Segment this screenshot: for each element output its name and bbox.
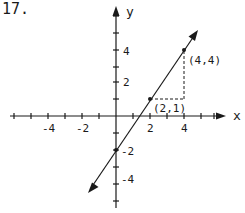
point-y-intercept [114, 148, 118, 152]
x-axis-arrow-icon [216, 113, 226, 120]
x-tick-label-4: 4 [181, 122, 188, 135]
x-tick-label-2: 2 [147, 122, 154, 135]
x-axis-label: x [233, 108, 241, 123]
coordinate-plane: y x (4,4) (2,1) -4 -2 2 4 4 2 -2 -4 [0, 0, 245, 213]
line-arrow-down-icon [88, 183, 99, 194]
line-arrow-up-icon [189, 30, 199, 41]
x-tick-label-neg2: -2 [76, 122, 89, 135]
point-2-1-label: (2,1) [153, 102, 186, 115]
y-axis [113, 6, 120, 208]
point-4-4-label: (4,4) [188, 54, 221, 67]
point-4-4 [182, 48, 186, 52]
y-tick-label-neg2: -2 [121, 145, 134, 158]
point-2-1 [148, 97, 152, 101]
x-axis [10, 113, 226, 120]
y-axis-arrow-icon [113, 6, 120, 16]
graph-figure: 17. [0, 0, 245, 213]
y-tick-label-4: 4 [123, 45, 130, 58]
y-tick-label-neg4: -4 [121, 173, 135, 186]
y-axis-label: y [126, 4, 134, 19]
y-tick-label-2: 2 [123, 76, 130, 89]
x-tick-label-neg4: -4 [42, 122, 56, 135]
